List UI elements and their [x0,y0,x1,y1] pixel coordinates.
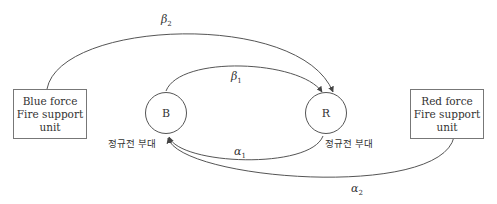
edge-alpha1 [169,136,323,160]
node-r: R [305,92,347,134]
node-r-label: R [322,107,330,120]
label-beta1: β1 [231,70,242,85]
label-alpha1: α1 [234,145,246,160]
label-beta2: β2 [161,13,172,28]
node-b-label: B [162,107,170,120]
node-b-caption: 정규전 부대 [108,136,156,150]
red-unit-line1: Red force [421,95,473,108]
blue-force-fire-support-unit: Blue force Fire support unit [13,89,87,139]
edge-beta2 [47,34,333,92]
label-alpha2: α2 [351,182,363,197]
node-r-caption: 정규전 부대 [325,136,373,150]
blue-unit-line3: unit [39,121,60,134]
red-unit-line3: unit [436,121,457,134]
node-b: B [145,92,187,134]
blue-unit-line1: Blue force [23,95,78,108]
red-force-fire-support-unit: Red force Fire support unit [410,89,484,139]
blue-unit-line2: Fire support [17,108,83,121]
red-unit-line2: Fire support [414,108,480,121]
edge-beta1 [166,66,322,92]
